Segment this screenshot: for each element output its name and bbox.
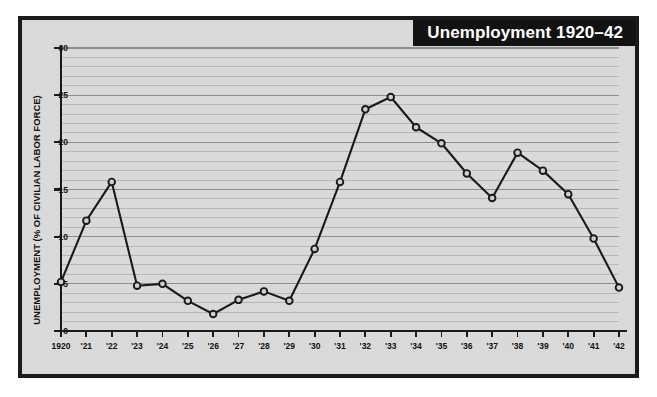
- data-point-marker: [286, 298, 293, 305]
- chart-title-banner: Unemployment 1920–42: [413, 20, 635, 46]
- data-point-marker: [83, 217, 90, 224]
- y-axis-tick-label: 20: [48, 137, 68, 147]
- data-point-marker: [311, 246, 318, 253]
- y-axis-tick-label: 10: [48, 232, 68, 242]
- y-axis-tick-label: 0: [48, 326, 68, 336]
- data-point-marker: [565, 191, 572, 198]
- data-point-marker: [159, 281, 166, 288]
- data-point-marker: [464, 170, 471, 177]
- y-axis-tick-label: 25: [48, 90, 68, 100]
- data-point-marker: [235, 297, 242, 304]
- y-axis-tick-label: 30: [48, 43, 68, 53]
- data-point-marker: [489, 195, 496, 202]
- chart-figure: Unemployment 1920–42 UNEMPLOYMENT (% OF …: [0, 0, 657, 397]
- data-point-marker: [413, 124, 420, 131]
- data-point-marker: [362, 106, 369, 113]
- plot-area: [22, 20, 635, 374]
- data-point-marker: [134, 282, 141, 289]
- y-axis-tick-labels: 051015202530: [44, 20, 68, 374]
- data-point-marker: [616, 284, 623, 291]
- page-title: Unemployment 1920–42: [427, 23, 623, 43]
- plot-background: [22, 20, 635, 374]
- data-point-marker: [108, 179, 115, 186]
- data-point-marker: [590, 235, 597, 242]
- y-axis-tick-label: 5: [48, 279, 68, 289]
- data-point-marker: [514, 149, 521, 156]
- data-point-marker: [438, 140, 445, 147]
- data-point-marker: [337, 179, 344, 186]
- data-point-marker: [210, 311, 217, 318]
- chart-frame: Unemployment 1920–42 UNEMPLOYMENT (% OF …: [18, 16, 639, 378]
- data-point-marker: [261, 288, 268, 295]
- data-point-marker: [185, 298, 192, 305]
- y-axis-tick-label: 15: [48, 185, 68, 195]
- data-point-marker: [387, 94, 394, 101]
- y-axis-label-text: UNEMPLOYMENT (% OF CIVILIAN LABOR FORCE): [31, 95, 42, 325]
- y-axis-label: UNEMPLOYMENT (% OF CIVILIAN LABOR FORCE): [28, 64, 44, 356]
- data-point-marker: [540, 167, 547, 174]
